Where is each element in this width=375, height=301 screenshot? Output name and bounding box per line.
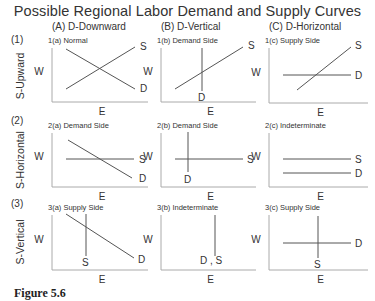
panel-label: 3(c) Supply Side (265, 203, 320, 212)
row-number-2: (2) (11, 115, 23, 126)
panel-label: 1(c) Supply Side (265, 36, 320, 45)
demand-curve-label: D (355, 238, 362, 249)
panel-3c: 3(c) Supply SideWEDS (251, 203, 368, 285)
x-axis-label: E (99, 191, 106, 202)
supply-curve (175, 47, 243, 89)
supply-curve-label: S (82, 257, 89, 268)
x-axis-label: E (207, 274, 214, 285)
demand-curve-label: D (184, 174, 191, 185)
demand-curve-label: D (138, 254, 145, 265)
y-axis-label: W (143, 234, 153, 245)
demand-curve (66, 214, 134, 258)
y-axis-label: W (143, 151, 153, 162)
column-header-0: (A) D-Downward (52, 21, 126, 32)
y-axis-label: W (143, 66, 153, 77)
y-axis-label: W (251, 67, 261, 78)
panel-1c: 1(c) Supply SideWEDS (251, 36, 368, 118)
y-axis-label: W (34, 66, 44, 77)
panel-1b: 1(b) Demand SideWEDS (143, 36, 256, 117)
x-axis-label: E (207, 191, 214, 202)
panel-1a: 1(a) NormalWEDS (34, 36, 148, 117)
row-side-label-2: S-Horizontal (14, 131, 26, 189)
supply-curve-label: S (355, 40, 362, 51)
panel-label: 2(a) Demand Side (48, 121, 109, 130)
panel-label: 3(b) Indeterminate (157, 203, 218, 212)
supply-curve-label: S (355, 154, 362, 165)
demand-supply-curve-label: D , S (200, 255, 223, 266)
x-axis-label: E (317, 191, 324, 202)
panel-2c: 2(c) IndeterminateWESD (251, 121, 368, 202)
panel-label: 3(a) Supply Side (48, 203, 103, 212)
x-axis-label: E (207, 106, 214, 117)
row-side-label-3: S-Vertical (14, 220, 26, 265)
panel-2a: 2(a) Demand SideWESD (34, 121, 148, 202)
figure-caption: Figure 5.6 (14, 286, 66, 301)
x-axis-label: E (99, 274, 106, 285)
demand-curve-label: D (140, 83, 147, 94)
supply-curve-label: S (314, 259, 321, 270)
column-header-1: (B) D-Vertical (161, 21, 220, 32)
supply-curve-label: S (248, 40, 255, 51)
panel-label: 1(a) Normal (48, 36, 88, 45)
row-side-label-1: S-Upward (14, 53, 26, 100)
y-axis-label: W (251, 151, 261, 162)
x-axis-label: E (99, 106, 106, 117)
demand-curve-label: D (139, 173, 146, 184)
panel-label: 1(b) Demand Side (157, 36, 218, 45)
panel-3b: 3(b) IndeterminateWED , S (143, 203, 256, 285)
y-axis-label: W (34, 151, 44, 162)
demand-curve-label: D (198, 92, 205, 103)
y-axis-label: W (251, 234, 261, 245)
x-axis-label: E (317, 107, 324, 118)
panel-2b: 2(b) Demand SideWESD (143, 121, 256, 202)
supply-curve-label: S (140, 41, 147, 52)
row-number-3: (3) (11, 198, 23, 209)
column-header-2: (C) D-Horizontal (269, 21, 341, 32)
x-axis-label: E (317, 274, 324, 285)
panel-label: 2(c) Indeterminate (265, 121, 326, 130)
supply-curve (297, 47, 351, 90)
demand-curve-label: D (355, 70, 362, 81)
y-axis-label: W (34, 234, 44, 245)
panel-3a: 3(a) Supply SideWEDS (34, 203, 148, 285)
panel-label: 2(b) Demand Side (157, 121, 218, 130)
demand-curve-label: D (355, 168, 362, 179)
row-number-1: (1) (11, 34, 23, 45)
